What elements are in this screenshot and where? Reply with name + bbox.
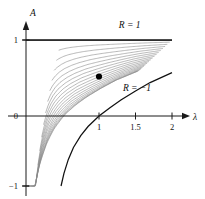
family-curve bbox=[40, 60, 151, 151]
marked-point bbox=[96, 73, 102, 79]
plot-svg: 11.52 −101 A λ R = 1 R = −1 bbox=[0, 0, 205, 199]
y-tick-label: 1 bbox=[14, 35, 18, 45]
lower-boundary-label: R = −1 bbox=[122, 83, 151, 93]
curve-family bbox=[27, 42, 170, 186]
y-axis-label: A bbox=[29, 8, 36, 18]
upper-boundary-label: R = 1 bbox=[118, 20, 141, 30]
x-axis-arrowhead bbox=[182, 113, 190, 119]
figure-canvas: 11.52 −101 A λ R = 1 R = −1 bbox=[0, 0, 205, 199]
family-curve bbox=[48, 52, 159, 101]
x-axis-ticks: 11.52 bbox=[97, 113, 174, 133]
y-axis-arrowhead bbox=[23, 21, 29, 30]
x-tick-label: 1.5 bbox=[130, 122, 141, 132]
family-curve bbox=[59, 42, 170, 50]
x-tick-label: 1 bbox=[97, 122, 101, 132]
family-curve bbox=[27, 71, 138, 186]
family-curve bbox=[28, 71, 139, 186]
y-tick-label: 0 bbox=[14, 111, 18, 121]
x-axis-label: λ bbox=[192, 112, 197, 122]
x-tick-label: 2 bbox=[170, 122, 174, 132]
y-tick-label: −1 bbox=[9, 181, 18, 191]
